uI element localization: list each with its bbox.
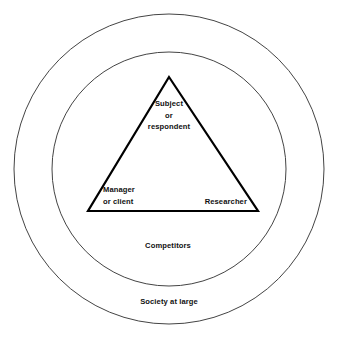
label-competitors-line-1: Competitors (145, 240, 191, 252)
label-society-at-large: Society at large (140, 296, 198, 308)
label-competitors: Competitors (145, 240, 191, 252)
label-researcher-line-1: Researcher (205, 196, 247, 208)
label-researcher: Researcher (205, 196, 247, 208)
outer-circle-society (14, 14, 324, 324)
label-manager-line-2: or client (103, 196, 135, 208)
label-manager-line-1: Manager (103, 184, 135, 196)
label-subject-or-respondent: Subject or respondent (148, 98, 190, 133)
label-manager-or-client: Manager or client (103, 184, 135, 207)
label-society-line-1: Society at large (140, 296, 198, 308)
label-subject-line-3: respondent (148, 121, 190, 133)
diagram-canvas: Subject or respondent Manager or client … (0, 0, 339, 337)
diagram-graphics (0, 0, 339, 337)
label-subject-line-2: or (148, 110, 190, 122)
label-subject-line-1: Subject (148, 98, 190, 110)
